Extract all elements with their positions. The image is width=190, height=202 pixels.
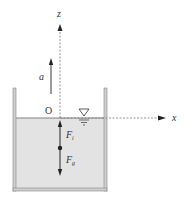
acceleration-label: a — [39, 71, 44, 82]
x-axis-arrowhead-icon — [158, 116, 166, 121]
container-bottom — [13, 188, 107, 191]
z-axis-label: z — [56, 8, 61, 19]
container-left-wall — [13, 88, 16, 191]
origin-label: O — [45, 105, 52, 116]
acceleration-arrowhead-icon — [49, 58, 53, 65]
x-axis-label: x — [171, 112, 177, 123]
z-axis-arrowhead-icon — [58, 24, 63, 31]
diagram-canvas: z x O a Fi Fg — [0, 0, 190, 202]
container-right-wall — [104, 88, 107, 191]
